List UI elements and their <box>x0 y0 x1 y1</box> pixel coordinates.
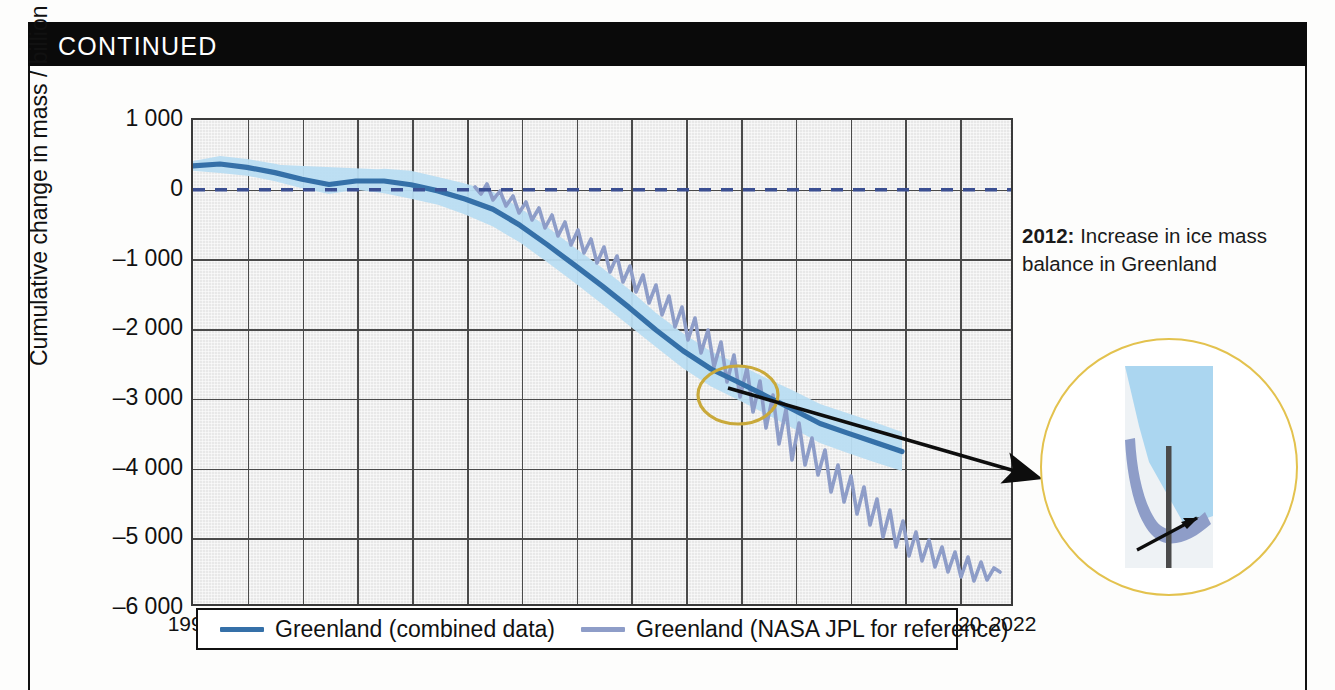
continued-banner <box>28 22 1307 66</box>
y-axis-title: Cumulative change in mass / billion <box>26 5 53 366</box>
inset-detail-art <box>1125 366 1213 568</box>
legend-item-nasa-jpl: Greenland (NASA JPL for reference) <box>581 616 1008 643</box>
chart-legend: Greenland (combined data) Greenland (NAS… <box>196 608 958 650</box>
legend-item-combined: Greenland (combined data) <box>220 616 555 643</box>
y-tick--2000: –2 000 <box>113 314 183 341</box>
legend-label-nasa-jpl: Greenland (NASA JPL for reference) <box>636 616 1008 643</box>
y-tick-0: 0 <box>170 175 183 202</box>
greenland-combined-line <box>193 164 902 452</box>
legend-swatch-combined <box>220 627 264 632</box>
y-tick--5000: –5 000 <box>113 523 183 550</box>
continued-banner-label: CONTINUED <box>58 32 217 61</box>
annotation-2012: 2012: Increase in ice mass balance in Gr… <box>1022 222 1297 277</box>
y-tick--1000: –1 000 <box>113 245 183 272</box>
annotation-year: 2012: <box>1022 224 1074 247</box>
plot-area <box>191 118 1013 606</box>
inset-magnifier-circle <box>1040 338 1298 596</box>
y-tick--3000: –3 000 <box>113 384 183 411</box>
uncertainty-band <box>193 156 902 471</box>
y-tick--4000: –4 000 <box>113 454 183 481</box>
page-canvas: CONTINUED 1 000 0 –1 000 –2 000 –3 000 –… <box>0 0 1335 690</box>
y-tick-1000: 1 000 <box>125 105 183 132</box>
legend-swatch-nasa-jpl <box>581 627 625 632</box>
legend-label-combined: Greenland (combined data) <box>275 616 555 643</box>
series-plot <box>193 120 1011 604</box>
